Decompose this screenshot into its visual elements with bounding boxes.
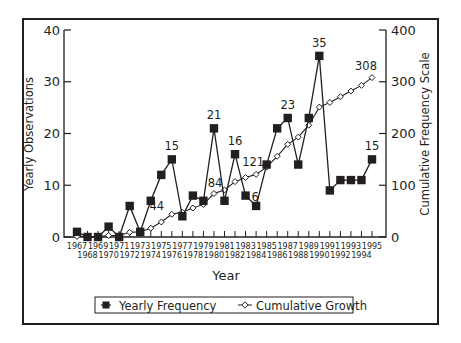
data-label: 6 xyxy=(251,190,258,204)
data-label: 16 xyxy=(228,134,243,148)
x-tick-label: 1982 xyxy=(225,251,245,260)
left-y-axis: 010203040 xyxy=(43,23,71,245)
filled-square-marker xyxy=(189,191,197,199)
data-label: 44 xyxy=(150,199,165,213)
filled-square-marker xyxy=(357,176,365,184)
filled-square-marker xyxy=(284,114,292,122)
open-diamond-marker xyxy=(327,99,333,105)
y2-tick-label: 200 xyxy=(391,126,416,141)
filled-square-marker xyxy=(336,176,344,184)
x-tick-label: 1993 xyxy=(341,242,361,251)
x-tick-label: 1990 xyxy=(309,251,329,260)
data-label: 15 xyxy=(165,139,180,153)
filled-square-marker xyxy=(210,124,218,132)
x-tick-label: 1977 xyxy=(172,242,192,251)
series-cumulative-growth xyxy=(74,75,375,240)
x-tick-label: 1984 xyxy=(246,251,266,260)
filled-square-marker xyxy=(326,186,334,194)
open-diamond-marker xyxy=(348,88,354,94)
series-yearly-frequency xyxy=(73,52,376,242)
filled-square-marker xyxy=(347,176,355,184)
data-label: 15 xyxy=(365,139,380,153)
legend-item-yearly-frequency: Yearly Frequency xyxy=(101,299,217,313)
open-diamond-marker xyxy=(316,104,322,110)
x-tick-label: 1972 xyxy=(119,251,139,260)
y-tick-label: 30 xyxy=(43,74,60,89)
filled-square-marker xyxy=(199,197,207,205)
y2-tick-label: 400 xyxy=(391,23,416,38)
filled-square-marker xyxy=(73,228,81,236)
filled-square-marker xyxy=(241,191,249,199)
filled-square-marker xyxy=(104,222,112,230)
x-tick-label: 1995 xyxy=(362,242,382,251)
x-tick-label: 1973 xyxy=(130,242,150,251)
filled-square-marker xyxy=(315,52,323,60)
axes xyxy=(64,30,386,237)
legend-label-cumulative-growth: Cumulative Growth xyxy=(256,299,367,313)
data-labels: 15211662335154484121308 xyxy=(150,36,380,213)
x-tick-label: 1981 xyxy=(214,242,234,251)
plot-axes-lines xyxy=(64,30,386,237)
legend-label-yearly-frequency: Yearly Frequency xyxy=(118,299,217,313)
y-axis-title: Yearly Observations xyxy=(22,77,36,192)
legend-item-cumulative-growth: Cumulative Growth xyxy=(238,299,367,313)
open-diamond-marker xyxy=(337,94,343,100)
x-axis-title: Year xyxy=(211,268,240,283)
y-tick-label: 20 xyxy=(43,126,60,141)
x-tick-label: 1967 xyxy=(67,242,87,251)
x-tick-label: 1968 xyxy=(77,251,97,260)
filled-square-marker xyxy=(168,155,176,163)
data-label: 84 xyxy=(208,176,223,190)
filled-square-marker xyxy=(115,233,123,241)
x-tick-label: 1975 xyxy=(151,242,171,251)
x-tick-label: 1986 xyxy=(267,251,287,260)
x-tick-label: 1969 xyxy=(88,242,108,251)
x-tick-label: 1976 xyxy=(162,251,182,260)
x-tick-label: 1979 xyxy=(193,242,213,251)
chart: 010203040 0100200300400 1967196819691970… xyxy=(0,0,461,343)
y-tick-label: 0 xyxy=(52,230,60,245)
data-label: 308 xyxy=(355,59,377,73)
right-y-axis: 0100200300400 xyxy=(379,23,416,245)
open-diamond-marker xyxy=(148,225,154,231)
filled-square-marker xyxy=(136,228,144,236)
filled-square-marker xyxy=(368,155,376,163)
x-tick-label: 1989 xyxy=(299,242,319,251)
open-diamond-marker xyxy=(243,174,249,180)
filled-square-marker xyxy=(94,233,102,241)
yearly-line xyxy=(77,56,372,237)
data-label: 121 xyxy=(242,155,264,169)
open-diamond-marker xyxy=(190,205,196,211)
filled-square-marker xyxy=(294,160,302,168)
x-tick-label: 1987 xyxy=(278,242,298,251)
filled-square-icon xyxy=(103,302,110,309)
x-tick-label: 1978 xyxy=(183,251,203,260)
filled-square-marker xyxy=(83,233,91,241)
x-tick-label: 1994 xyxy=(351,251,371,260)
x-tick-label: 1991 xyxy=(320,242,340,251)
y2-tick-label: 300 xyxy=(391,74,416,89)
y2-axis-title: Cumulative Frequency Scale xyxy=(418,52,432,215)
x-tick-label: 1983 xyxy=(235,242,255,251)
x-tick-label: 1971 xyxy=(109,242,129,251)
y2-tick-label: 0 xyxy=(391,230,399,245)
y2-tick-label: 100 xyxy=(391,178,416,193)
filled-square-marker xyxy=(305,114,313,122)
data-label: 23 xyxy=(280,98,295,112)
filled-square-marker xyxy=(178,212,186,220)
data-label: 35 xyxy=(312,36,327,50)
data-label: 21 xyxy=(207,108,222,122)
filled-square-marker xyxy=(220,197,228,205)
x-tick-label: 1985 xyxy=(256,242,276,251)
legend: Yearly Frequency Cumulative Growth xyxy=(95,297,367,313)
x-tick-label: 1980 xyxy=(204,251,224,260)
x-tick-label: 1974 xyxy=(141,251,161,260)
open-diamond-marker xyxy=(127,229,133,235)
y-tick-label: 40 xyxy=(43,23,60,38)
filled-square-marker xyxy=(125,202,133,210)
x-tick-label: 1970 xyxy=(98,251,118,260)
y-tick-label: 10 xyxy=(43,178,60,193)
x-tick-label: 1988 xyxy=(288,251,308,260)
x-tick-label: 1992 xyxy=(330,251,350,260)
filled-square-marker xyxy=(273,124,281,132)
